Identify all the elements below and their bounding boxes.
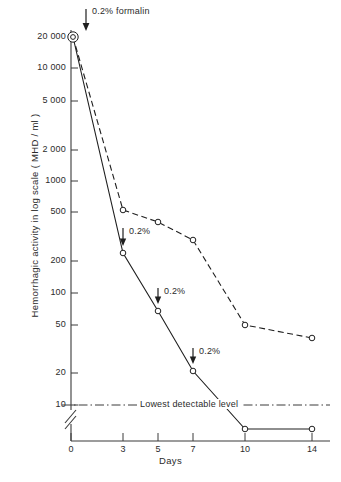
x-tick-label-5: 5: [146, 444, 170, 454]
y-tick-label-10000: 10 000: [4, 62, 66, 72]
annotation-dose-3: 0.2%: [199, 346, 220, 356]
annotation-dose-2: 0.2%: [164, 286, 185, 296]
y-axis-title: Hemorrhagic activity in log scale ( MHD …: [29, 86, 40, 346]
figure-container: 20 000 10 000 5 000 2 000 1000 500 200 1…: [0, 0, 341, 482]
y-tick-marks: [71, 37, 78, 405]
y-tick-label-10: 10: [4, 399, 66, 409]
x-tick-label-14: 14: [300, 444, 324, 454]
threshold-label: Lowest detectable level: [137, 399, 241, 409]
x-tick-label-7: 7: [181, 444, 205, 454]
y-tick-label-20000: 20 000: [4, 31, 66, 41]
origin-double-circle-marker: [68, 32, 78, 42]
series-line-dashed: [73, 37, 312, 338]
x-tick-marks: [71, 433, 312, 441]
annotation-dose-1: 0.2%: [129, 226, 150, 236]
chart-plot-area: [0, 0, 341, 482]
arrow-down-icon-dose-2: [155, 288, 161, 304]
x-axis-title: Days: [0, 455, 341, 466]
x-tick-label-3: 3: [111, 444, 135, 454]
x-tick-label-10: 10: [233, 444, 257, 454]
y-tick-label-20: 20: [4, 367, 66, 377]
annotation-formalin: 0.2% formalin: [92, 6, 150, 16]
arrow-down-icon-dose-3: [190, 348, 196, 364]
arrow-down-icon-formalin: [83, 9, 90, 31]
x-tick-label-0: 0: [59, 444, 83, 454]
